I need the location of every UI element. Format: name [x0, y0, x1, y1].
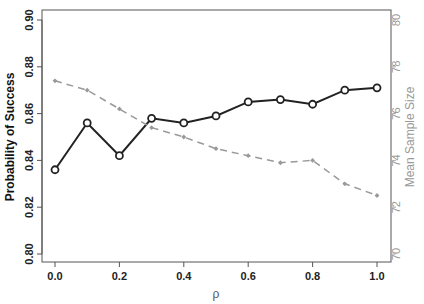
- mean-sample-size-point: [278, 160, 283, 165]
- left-axis-title: Probability of Success: [3, 72, 17, 201]
- right-tick-label: 72: [390, 201, 402, 213]
- mean-sample-size-point: [246, 153, 251, 158]
- x-tick-label: 0.0: [47, 270, 62, 282]
- mean-sample-size-point: [375, 193, 380, 198]
- plot-frame: [42, 10, 391, 262]
- dual-axis-line-chart: 0.800.820.840.860.880.90 707274767880 0.…: [0, 0, 424, 304]
- left-tick-label: 0.82: [23, 196, 35, 217]
- mean-sample-size-point: [149, 125, 154, 130]
- right-tick-label: 80: [390, 14, 402, 26]
- x-tick-label: 0.2: [112, 270, 127, 282]
- probability-of-success-point: [309, 101, 316, 108]
- left-tick-label: 0.80: [23, 243, 35, 264]
- left-y-axis: 0.800.820.840.860.880.90: [23, 9, 42, 264]
- probability-of-success-point: [245, 98, 252, 105]
- right-tick-label: 70: [390, 248, 402, 260]
- x-tick-label: 0.4: [176, 270, 192, 282]
- series-layer: [52, 78, 381, 197]
- mean-sample-size-point: [85, 88, 90, 93]
- probability-of-success-point: [148, 115, 155, 122]
- x-tick-label: 1.0: [369, 270, 384, 282]
- mean-sample-size-point: [53, 78, 58, 83]
- probability-of-success-point: [180, 119, 187, 126]
- probability-of-success-point: [52, 166, 59, 173]
- left-tick-label: 0.86: [23, 103, 35, 124]
- right-tick-label: 76: [390, 107, 402, 119]
- x-tick-label: 0.8: [305, 270, 320, 282]
- probability-of-success-point: [277, 96, 284, 103]
- right-tick-label: 74: [390, 154, 402, 166]
- mean-sample-size-point: [214, 146, 219, 151]
- probability-of-success-point: [116, 152, 123, 159]
- x-axis: 0.00.20.40.60.81.0: [47, 262, 384, 282]
- probability-of-success-point: [374, 84, 381, 91]
- probability-of-success-point: [213, 112, 220, 119]
- probability-of-success-point: [341, 87, 348, 94]
- right-tick-label: 78: [390, 61, 402, 73]
- right-axis-title: Mean Sample Size: [403, 86, 417, 187]
- mean-sample-size-point: [342, 181, 347, 186]
- right-y-axis: 707274767880: [390, 14, 402, 260]
- x-axis-title: ρ: [213, 287, 220, 301]
- probability-of-success-point: [84, 119, 91, 126]
- mean-sample-size-point: [181, 135, 186, 140]
- left-tick-label: 0.84: [23, 149, 35, 171]
- left-tick-label: 0.88: [23, 56, 35, 77]
- left-tick-label: 0.90: [23, 9, 35, 30]
- x-tick-label: 0.6: [241, 270, 256, 282]
